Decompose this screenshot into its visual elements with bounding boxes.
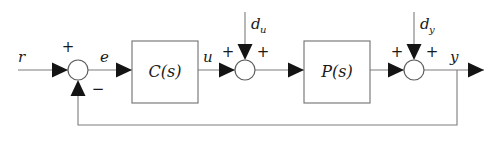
arrowhead-plant-into-sum bbox=[388, 63, 404, 78]
arrowhead-reference-into-sum bbox=[52, 63, 68, 78]
error-signal-label: e bbox=[100, 48, 109, 66]
reference-signal-label: r bbox=[18, 48, 26, 66]
output-disturbance-summing-junction[interactable] bbox=[404, 60, 424, 80]
input-disturbance-label-subscript: u bbox=[260, 24, 266, 35]
output-signal-label: y bbox=[449, 48, 459, 66]
arrowhead-feedback-into-sum bbox=[71, 80, 86, 96]
block-diagram-canvas: C(s) P(s) + − + + + + r e u y d u d y bbox=[0, 0, 501, 142]
error-junction-minus-sign: − bbox=[92, 80, 105, 98]
input-disturbance-summing-junction[interactable] bbox=[235, 60, 255, 80]
arrowhead-into-controller bbox=[116, 63, 132, 78]
arrowhead-input-disturbance bbox=[238, 44, 253, 60]
output-disturbance-junction-plus-right: + bbox=[426, 43, 439, 61]
arrowhead-output-disturbance bbox=[407, 44, 422, 60]
input-disturbance-junction-plus-left: + bbox=[222, 43, 235, 61]
arrowhead-control-into-sum bbox=[219, 63, 235, 78]
control-signal-label: u bbox=[203, 48, 213, 66]
arrowhead-output bbox=[468, 63, 484, 78]
input-disturbance-junction-plus-right: + bbox=[257, 43, 270, 61]
plant-block-label: P(s) bbox=[320, 62, 352, 81]
output-disturbance-junction-plus-left: + bbox=[391, 43, 404, 61]
error-junction-plus-sign: + bbox=[62, 38, 75, 56]
feedback-control-diagram: C(s) P(s) + − + + + + r e u y d u d y bbox=[0, 0, 501, 142]
controller-block-label: C(s) bbox=[149, 62, 182, 81]
error-summing-junction[interactable] bbox=[68, 60, 88, 80]
arrowhead-into-plant bbox=[288, 63, 304, 78]
output-disturbance-label-subscript: y bbox=[428, 24, 435, 35]
